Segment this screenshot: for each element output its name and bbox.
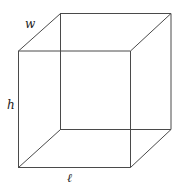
width-label: w <box>25 17 36 31</box>
rectangular-prism-diagram: w h ℓ <box>0 0 180 191</box>
length-label: ℓ <box>67 171 72 185</box>
depth-edge-bottom-right <box>131 130 172 168</box>
prism-svg: w h ℓ <box>0 0 180 191</box>
front-face <box>18 51 131 168</box>
back-face <box>60 14 171 130</box>
height-label: h <box>7 98 15 112</box>
depth-edge-bottom-left <box>19 130 61 168</box>
depth-edges <box>19 14 172 168</box>
depth-edge-top-right <box>131 14 172 52</box>
